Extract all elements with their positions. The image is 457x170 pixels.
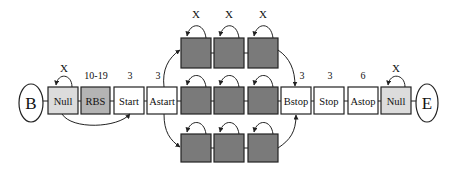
- begin-label: B: [25, 94, 36, 113]
- state-start: Start 3: [114, 70, 144, 114]
- gene-row-top-annotations: X X X: [192, 8, 267, 20]
- gene-row-top: [181, 38, 278, 68]
- annotation-astop: 6: [361, 70, 366, 81]
- end-node: E: [416, 84, 438, 122]
- gene-row-bottom: [181, 134, 278, 162]
- svg-text:Null: Null: [387, 96, 406, 107]
- gene-row-middle: [181, 87, 278, 114]
- svg-text:X: X: [225, 8, 233, 20]
- begin-node: B: [19, 84, 43, 122]
- svg-text:Start: Start: [119, 96, 139, 107]
- svg-text:Astart: Astart: [149, 96, 175, 107]
- end-label: E: [422, 94, 432, 113]
- annotation-null-end: X: [392, 62, 400, 74]
- svg-text:Bstop: Bstop: [284, 96, 309, 107]
- state-bstop: Bstop 3: [281, 70, 311, 114]
- annotation-rbs: 10-19: [84, 70, 107, 81]
- annotation-start: 3: [128, 70, 133, 81]
- state-null-end: Null X: [381, 62, 411, 114]
- state-stop: Stop 3: [314, 70, 344, 114]
- annotation-stop: 3: [328, 70, 333, 81]
- svg-text:RBS: RBS: [86, 96, 106, 107]
- state-astop: Astop 6: [348, 70, 378, 114]
- state-rbs: RBS 10-19: [81, 70, 110, 114]
- state-null-start: Null X: [48, 62, 78, 114]
- state-astart: Astart 3: [147, 70, 177, 114]
- svg-text:Null: Null: [54, 96, 73, 107]
- svg-text:X: X: [259, 8, 267, 20]
- annotation-null-start: X: [60, 62, 68, 74]
- svg-text:Stop: Stop: [319, 96, 338, 107]
- gene-model-diagram: B E Null X RBS 10-19 Start 3 Astart 3 Bs…: [0, 0, 457, 170]
- svg-text:Astop: Astop: [350, 96, 375, 107]
- annotation-astart: 3: [156, 70, 161, 81]
- svg-text:X: X: [192, 8, 200, 20]
- annotation-bstop: 3: [300, 70, 305, 81]
